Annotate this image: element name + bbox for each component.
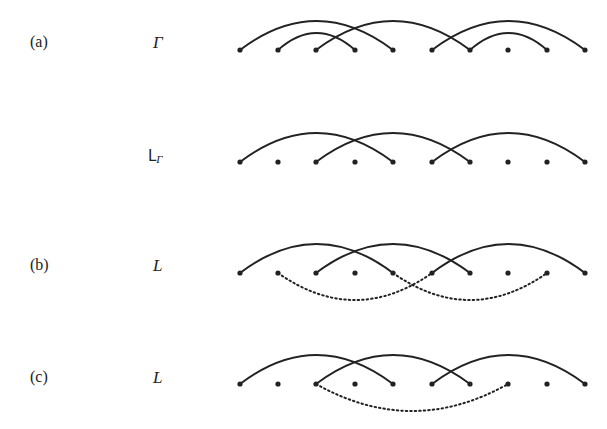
node-point xyxy=(275,159,280,164)
node-point xyxy=(505,381,510,386)
node-point xyxy=(390,47,395,52)
node-point xyxy=(544,159,549,164)
node-point xyxy=(237,270,242,275)
node-point xyxy=(275,47,280,52)
node-point xyxy=(505,159,510,164)
diagram-row-a xyxy=(237,21,587,53)
node-point xyxy=(429,47,434,52)
solid-arc xyxy=(316,244,470,273)
solid-arc xyxy=(240,355,393,384)
dotted-arc xyxy=(278,273,432,300)
node-point xyxy=(582,381,587,386)
node-point xyxy=(313,47,318,52)
node-point xyxy=(275,270,280,275)
diagram-row-b xyxy=(237,244,587,300)
node-point xyxy=(352,270,357,275)
solid-arc xyxy=(432,244,585,273)
node-point xyxy=(352,47,357,52)
node-point xyxy=(237,159,242,164)
node-point xyxy=(237,381,242,386)
solid-arc xyxy=(240,133,393,162)
solid-arc xyxy=(240,21,393,50)
diagram-row-lgamma xyxy=(237,133,587,165)
solid-arc xyxy=(240,244,393,273)
node-point xyxy=(429,270,434,275)
node-point xyxy=(313,270,318,275)
solid-arc xyxy=(432,21,585,50)
node-point xyxy=(390,381,395,386)
node-point xyxy=(467,270,472,275)
node-point xyxy=(544,47,549,52)
node-point xyxy=(313,381,318,386)
node-point xyxy=(429,381,434,386)
node-point xyxy=(544,381,549,386)
node-point xyxy=(582,47,587,52)
arc-diagrams xyxy=(0,0,607,429)
dotted-arc xyxy=(393,273,547,300)
node-point xyxy=(390,159,395,164)
solid-arc xyxy=(316,355,470,384)
node-point xyxy=(582,270,587,275)
node-point xyxy=(505,47,510,52)
node-point xyxy=(429,159,434,164)
dotted-arc xyxy=(316,384,508,411)
node-point xyxy=(544,270,549,275)
solid-arc xyxy=(432,355,585,384)
solid-arc xyxy=(432,133,585,162)
node-point xyxy=(467,159,472,164)
solid-arc xyxy=(316,21,470,50)
node-point xyxy=(467,47,472,52)
diagram-row-c xyxy=(237,355,587,411)
node-point xyxy=(390,270,395,275)
node-point xyxy=(352,381,357,386)
node-point xyxy=(505,270,510,275)
solid-arc xyxy=(316,133,470,162)
node-point xyxy=(237,47,242,52)
node-point xyxy=(352,159,357,164)
node-point xyxy=(275,381,280,386)
node-point xyxy=(467,381,472,386)
node-point xyxy=(313,159,318,164)
node-point xyxy=(582,159,587,164)
